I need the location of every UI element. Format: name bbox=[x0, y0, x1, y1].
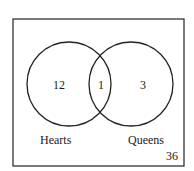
venn-diagram bbox=[0, 0, 194, 171]
hearts-label: Hearts bbox=[40, 134, 71, 146]
hearts-only-count: 12 bbox=[53, 79, 65, 91]
universe-count: 36 bbox=[166, 150, 178, 162]
queens-label: Queens bbox=[128, 134, 164, 146]
intersection-count: 1 bbox=[98, 79, 104, 91]
queens-only-count: 3 bbox=[140, 79, 146, 91]
